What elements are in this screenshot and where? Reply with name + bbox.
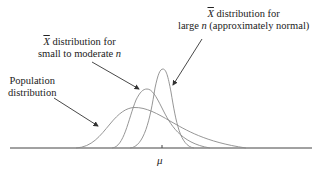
large-n-label-text1: distribution for — [214, 8, 280, 19]
population-label: Population distribution — [8, 75, 56, 99]
small-n-label-text1: distribution for — [50, 36, 116, 47]
mu-label: μ — [157, 154, 163, 166]
population-label-line2: distribution — [8, 87, 56, 99]
population-label-line1: Population — [8, 75, 56, 87]
large-n-arrow — [173, 39, 202, 85]
large-n-label-text2: large — [178, 20, 201, 31]
large-n-label: X distribution for large n (approximatel… — [178, 8, 309, 32]
large-n-label-line1: X distribution for — [178, 8, 309, 20]
small-n-label-text2: small to moderate — [38, 48, 116, 59]
large-n-label-line2: large n (approximately normal) — [178, 20, 309, 32]
small-n-label-line1: X distribution for — [38, 36, 121, 48]
small-n-arrow — [92, 62, 139, 89]
large-n-label-text3: (approximately normal) — [207, 20, 310, 31]
small-n-label-line2: small to moderate n — [38, 48, 121, 60]
population-curve — [76, 107, 246, 148]
small-n-label: X distribution for small to moderate n — [38, 36, 121, 60]
small-moderate-n-curve — [112, 89, 210, 148]
population-arrow — [54, 98, 98, 126]
n-variable: n — [116, 48, 121, 59]
